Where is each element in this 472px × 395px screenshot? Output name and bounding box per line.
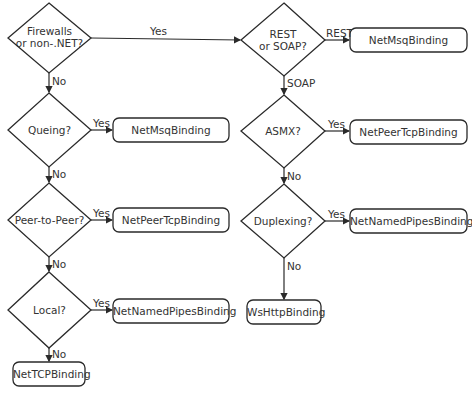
flowchart-canvas (0, 0, 472, 395)
edge-label-queing-no: No (52, 168, 66, 180)
decision-asmx-label: ASMX? (241, 125, 325, 137)
decision-firewalls-line2: or non-.NET? (8, 37, 91, 49)
edge-label-queing-yes: Yes (93, 117, 110, 129)
edge-label-duplexing-no: No (287, 260, 301, 272)
decision-duplexing-label: Duplexing? (241, 215, 325, 227)
outcome-left-pipes-label: NetNamedPipesBinding (113, 305, 229, 317)
outcome-left-msmq-label: NetMsqBinding (113, 124, 229, 136)
decision-rest-soap-label: REST or SOAP? (241, 28, 325, 52)
edge-label-duplexing-yes: Yes (328, 208, 345, 220)
decision-firewalls-line1: Firewalls (8, 25, 91, 37)
edge-label-local-yes: Yes (93, 297, 110, 309)
decision-queing-label: Queing? (8, 124, 91, 136)
decision-firewalls-label: Firewalls or non-.NET? (8, 25, 91, 49)
edge-label-firewalls-no: No (52, 75, 66, 87)
outcome-right-pipes-label: NetNamedPipesBinding (350, 215, 467, 227)
outcome-right-msmq-label: NetMsqBinding (350, 34, 467, 46)
decision-local-label: Local? (8, 304, 91, 316)
decision-rest-soap-line1: REST (241, 28, 325, 40)
edge-label-asmx-no: No (287, 170, 301, 182)
outcome-left-peer-label: NetPeerTcpBinding (113, 214, 229, 226)
decision-peer-label: Peer-to-Peer? (8, 214, 91, 226)
outcome-tcp-label: NetTCPBinding (13, 368, 85, 380)
edge-label-firewalls-yes: Yes (150, 25, 167, 37)
edge-label-soap: SOAP (287, 77, 315, 89)
decision-rest-soap-line2: or SOAP? (241, 40, 325, 52)
edge-label-peer-no: No (52, 258, 66, 270)
outcome-wshttp-label: WsHttpBinding (247, 306, 321, 318)
edge-label-asmx-yes: Yes (328, 118, 345, 130)
outcome-right-peer-label: NetPeerTcpBinding (350, 126, 467, 138)
edge-label-local-no: No (52, 348, 66, 360)
edge-label-peer-yes: Yes (93, 207, 110, 219)
edge-firewalls-yes (91, 38, 240, 40)
edge-label-rest: REST (326, 27, 353, 39)
